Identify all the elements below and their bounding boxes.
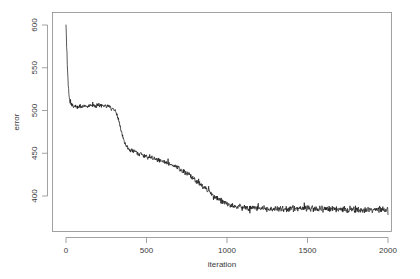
x-tick-label: 1500	[299, 246, 317, 255]
plot-canvas: 400450500550600 error 0500100015002000 i…	[0, 0, 420, 279]
x-tick-label: 2000	[379, 246, 397, 255]
y-tick-label: 400	[30, 189, 39, 203]
x-tick-label: 500	[140, 246, 154, 255]
x-tick-label: 1000	[218, 246, 236, 255]
x-axis-title: iteration	[208, 260, 236, 269]
x-tick-label: 0	[64, 246, 69, 255]
y-axis-title: error	[12, 113, 21, 130]
y-tick-label: 550	[30, 61, 39, 75]
y-tick-label: 500	[30, 103, 39, 117]
y-tick-label: 450	[30, 146, 39, 160]
y-tick-label: 600	[30, 18, 39, 32]
chart-figure: 400450500550600 error 0500100015002000 i…	[0, 0, 420, 279]
